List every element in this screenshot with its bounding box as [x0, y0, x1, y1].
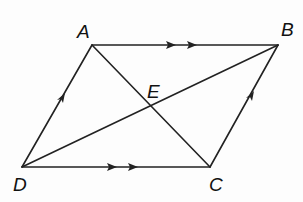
side-da — [22, 45, 92, 167]
label-e: E — [147, 81, 160, 102]
label-d: D — [13, 174, 27, 195]
label-a: A — [76, 21, 90, 42]
arrow-mark-da — [57, 93, 65, 103]
diagonal-db — [22, 45, 278, 167]
label-b: B — [281, 19, 294, 40]
diagram-svg: A B C D E — [0, 0, 303, 202]
label-c: C — [209, 174, 223, 195]
side-cb — [210, 45, 278, 167]
parallelogram-diagram: A B C D E — [0, 0, 303, 202]
